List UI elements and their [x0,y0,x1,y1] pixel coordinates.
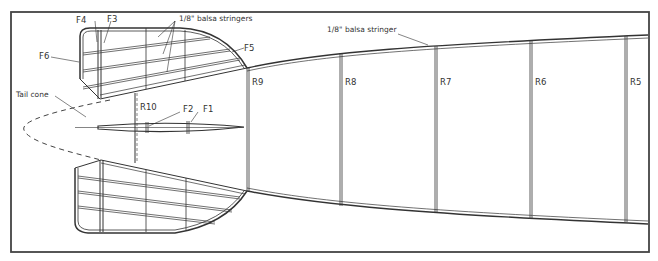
drawing-border [11,12,649,252]
label-stringers: 1/8" balsa stringers [179,14,252,23]
label-r10: R10 [140,102,157,112]
label-r9: R9 [252,77,263,87]
tail-cone-outline [24,100,110,160]
center-stabilizer [75,93,244,163]
upper-tail-fin [80,28,247,99]
label-f1: F1 [203,104,213,114]
label-f2: F2 [183,104,193,114]
label-r6: R6 [535,77,546,87]
label-tail-cone: Tail cone [15,90,49,99]
fuselage-body [247,35,648,224]
label-r7: R7 [440,77,451,87]
label-r5: R5 [630,77,641,87]
label-f3: F3 [107,14,117,24]
leader-lines [51,21,428,126]
label-f4: F4 [76,15,86,25]
label-f6: F6 [39,51,49,61]
label-r8: R8 [345,77,356,87]
label-stringer: 1/8" balsa stringer [327,25,397,34]
label-f5: F5 [244,43,254,53]
lower-tail-fin [75,160,247,233]
tail-section-drawing: F4 F3 1/8" balsa stringers F5 F6 Tail co… [0,0,658,261]
